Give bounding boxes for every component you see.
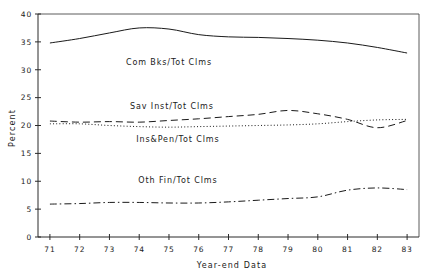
series-line-0 xyxy=(50,28,407,53)
x-tick-label-71: 71 xyxy=(44,245,55,254)
series-label-2: Ins&Pen/Tot Clms xyxy=(136,135,219,144)
series-line-2 xyxy=(50,119,407,127)
y-axis: 0510152025303540 Percent xyxy=(8,10,41,242)
y-tick-label-35: 35 xyxy=(21,38,32,47)
x-tick-label-81: 81 xyxy=(342,245,353,254)
x-tick-label-72: 72 xyxy=(74,245,85,254)
x-tick-label-74: 74 xyxy=(134,245,145,254)
series-label-1: Sav Inst/Tot Clms xyxy=(130,102,214,111)
x-tick-label-80: 80 xyxy=(312,245,323,254)
y-axis-title: Percent xyxy=(8,109,17,147)
plot-frame xyxy=(38,14,419,237)
x-tick-label-79: 79 xyxy=(282,245,293,254)
y-tick-label-25: 25 xyxy=(21,93,32,102)
y-tick-label-30: 30 xyxy=(21,66,32,75)
series-label-layer: Com Bks/Tot ClmsSav Inst/Tot ClmsIns&Pen… xyxy=(126,58,220,186)
x-tick-label-73: 73 xyxy=(104,245,115,254)
x-tick-label-75: 75 xyxy=(163,245,174,254)
series-label-0: Com Bks/Tot Clms xyxy=(126,58,212,67)
x-tick-label-77: 77 xyxy=(223,245,234,254)
series-line-3 xyxy=(50,188,407,204)
series-line-1 xyxy=(50,110,407,127)
y-tick-label-40: 40 xyxy=(21,10,32,19)
x-axis: 71727374757677787980818283 Year-end Data xyxy=(38,234,419,270)
y-tick-label-15: 15 xyxy=(21,149,32,158)
x-tick-label-83: 83 xyxy=(402,245,413,254)
x-tick-label-78: 78 xyxy=(253,245,264,254)
line-chart: 0510152025303540 Percent 717273747576777… xyxy=(0,0,431,274)
series-label-3: Oth Fin/Tot Clms xyxy=(138,176,217,185)
chart-container: 0510152025303540 Percent 717273747576777… xyxy=(0,0,431,274)
y-tick-label-5: 5 xyxy=(26,205,32,214)
y-tick-label-20: 20 xyxy=(21,121,32,130)
x-tick-label-82: 82 xyxy=(372,245,383,254)
x-axis-title: Year-end Data xyxy=(196,261,267,270)
series-layer xyxy=(50,28,407,204)
y-tick-label-10: 10 xyxy=(21,177,32,186)
y-tick-label-0: 0 xyxy=(26,233,32,242)
x-tick-label-76: 76 xyxy=(193,245,204,254)
